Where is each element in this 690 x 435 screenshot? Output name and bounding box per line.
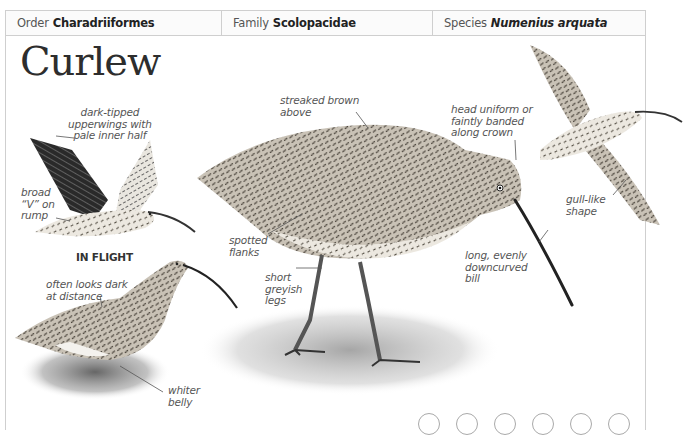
annotation-head-uniform: head uniform or faintly banded along cro… xyxy=(451,104,533,139)
annotation-line: pale inner half xyxy=(68,130,152,142)
annotation-line: bill xyxy=(465,273,527,285)
nav-dot-2[interactable] xyxy=(456,413,478,435)
annotation-line: flanks xyxy=(229,247,268,259)
annotation-line: belly xyxy=(168,397,200,409)
annotation-line: legs xyxy=(265,295,302,307)
annotation-line: short xyxy=(265,272,302,284)
annotation-line: streaked brown xyxy=(280,95,359,107)
annotation-streaked-brown: streaked brown above xyxy=(280,95,359,118)
annotation-line: broad xyxy=(21,187,55,199)
annotation-line: shape xyxy=(566,206,606,218)
annotation-line: gull-like xyxy=(566,194,606,206)
page-navigation-dots xyxy=(418,413,630,435)
annotation-line: at distance xyxy=(46,291,128,303)
annotation-often-looks-dark: often looks dark at distance xyxy=(46,279,128,302)
annotation-line: long, evenly xyxy=(465,250,527,262)
annotation-line: head uniform or xyxy=(451,104,533,116)
nav-dot-3[interactable] xyxy=(494,413,516,435)
annotation-broad-v-rump: broad “V” on rump xyxy=(21,187,55,222)
annotation-dark-tipped-upperwings: dark-tipped upperwings with pale inner h… xyxy=(68,107,152,142)
in-flight-caption: IN FLIGHT xyxy=(76,251,133,263)
annotation-line: spotted xyxy=(229,235,268,247)
annotation-long-downcurved-bill: long, evenly downcurved bill xyxy=(465,250,527,285)
nav-dot-6[interactable] xyxy=(608,413,630,435)
annotation-gull-like-shape: gull-like shape xyxy=(566,194,606,217)
annotation-line: often looks dark xyxy=(46,279,128,291)
flight-curlew-illustration xyxy=(30,138,195,236)
gull-like-curlew-illustration xyxy=(530,45,682,225)
annotation-spotted-flanks: spotted flanks xyxy=(229,235,268,258)
nav-dot-5[interactable] xyxy=(570,413,592,435)
annotation-whiter-belly: whiter belly xyxy=(168,385,200,408)
annotation-line: along crown xyxy=(451,127,533,139)
annotation-short-greyish-legs: short greyish legs xyxy=(265,272,302,307)
nav-dot-1[interactable] xyxy=(418,413,440,435)
nav-dot-4[interactable] xyxy=(532,413,554,435)
annotation-line: above xyxy=(280,107,359,119)
annotation-line: whiter xyxy=(168,385,200,397)
annotation-line: dark-tipped xyxy=(68,107,152,119)
annotation-line: rump xyxy=(21,210,55,222)
